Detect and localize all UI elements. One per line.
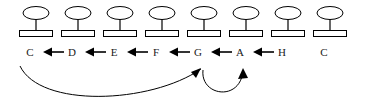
diagram-figure: CDEFGAHC bbox=[0, 0, 371, 108]
curved-arrow-layer bbox=[0, 0, 371, 108]
curved-arrow-icon-C-to-G bbox=[20, 66, 201, 96]
curved-arrow-icon-G-to-A bbox=[203, 68, 248, 92]
